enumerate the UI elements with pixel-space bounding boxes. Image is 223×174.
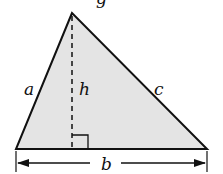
label-height-h: h xyxy=(79,79,90,99)
arrow-right-icon xyxy=(194,159,206,167)
label-side-c: c xyxy=(154,79,164,99)
triangle-diagram: g a h c b xyxy=(0,0,223,174)
label-side-a: a xyxy=(24,79,34,99)
arrow-left-icon xyxy=(17,159,29,167)
label-base-b: b xyxy=(101,154,112,174)
cut-off-title-fragment: g xyxy=(96,0,107,8)
triangle-shape xyxy=(16,13,207,149)
